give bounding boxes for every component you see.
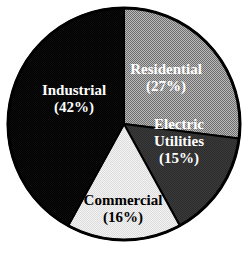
pie-slice-residential[interactable]	[124, 8, 240, 139]
pie-chart-svg: Residential(27%)ElectricUtilities(15%)Co…	[0, 0, 249, 254]
pie-chart: Residential(27%)ElectricUtilities(15%)Co…	[0, 0, 249, 254]
